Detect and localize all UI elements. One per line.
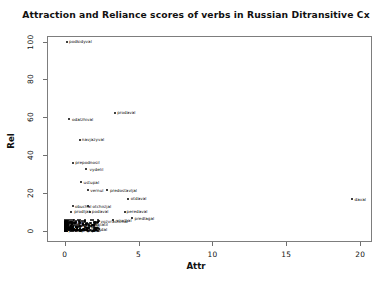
point-label: otchisljal xyxy=(93,203,112,208)
x-tick-mark xyxy=(212,242,213,246)
y-tick-label: 60 xyxy=(26,112,35,122)
point-label: predostavljal xyxy=(110,187,137,192)
data-point xyxy=(71,223,73,225)
data-point xyxy=(97,221,99,223)
data-point xyxy=(86,229,88,231)
data-point xyxy=(90,225,92,227)
point-label: otdaval xyxy=(131,196,147,201)
point-label: daval xyxy=(355,196,366,201)
data-point xyxy=(80,181,82,183)
data-point xyxy=(68,118,70,120)
data-point xyxy=(351,198,353,200)
data-point xyxy=(70,211,72,213)
x-tick-label: 15 xyxy=(281,250,291,259)
point-label: navjazyval xyxy=(82,137,104,142)
x-tick-label: 20 xyxy=(355,250,365,259)
point-label: vydelil xyxy=(90,166,104,171)
data-point xyxy=(88,227,90,229)
point-label: peredaval xyxy=(127,209,148,214)
data-point xyxy=(68,224,70,226)
data-point xyxy=(81,229,83,231)
data-point xyxy=(78,225,80,227)
y-tick-label: 20 xyxy=(26,188,35,198)
data-point xyxy=(87,205,89,207)
point-label: prepodnosil xyxy=(75,160,99,165)
data-point xyxy=(73,219,75,221)
data-point xyxy=(72,162,74,164)
point-label: podaval xyxy=(92,209,109,214)
data-point xyxy=(65,229,67,231)
point-label: podkidyval xyxy=(69,39,92,44)
data-point xyxy=(114,112,116,114)
x-tick-label: 0 xyxy=(62,250,67,259)
data-point xyxy=(72,205,74,207)
data-point xyxy=(89,229,91,231)
point-label: ustupal xyxy=(84,179,100,184)
x-tick-mark xyxy=(65,242,66,246)
x-tick-mark xyxy=(139,242,140,246)
data-point xyxy=(124,211,126,213)
scatter-layer: podkidyvalodalzhivalprodavalnavjazyvalpr… xyxy=(47,36,372,242)
x-tick-label: 5 xyxy=(136,250,141,259)
y-axis-label: Rel xyxy=(6,133,16,148)
data-point xyxy=(87,189,89,191)
data-point xyxy=(106,189,108,191)
point-label: odalzhival xyxy=(72,116,93,121)
chart-title: Attraction and Reliance scores of verbs … xyxy=(0,9,392,20)
data-point xyxy=(85,168,87,170)
y-tick-label: 80 xyxy=(26,74,35,84)
point-label: prodaval xyxy=(117,110,135,115)
y-tick-label: 0 xyxy=(26,228,35,233)
x-tick-mark xyxy=(360,242,361,246)
data-point xyxy=(75,222,77,224)
y-tick-label: 40 xyxy=(26,150,35,160)
point-label: prodljal xyxy=(74,209,90,214)
data-point xyxy=(84,219,86,221)
data-point xyxy=(66,41,68,43)
point-label: predlagal xyxy=(135,215,155,220)
data-point xyxy=(89,211,91,213)
x-tick-label: 10 xyxy=(207,250,217,259)
data-point xyxy=(64,224,66,226)
x-tick-mark xyxy=(286,242,287,246)
data-point xyxy=(85,223,87,225)
data-point xyxy=(74,229,76,231)
data-point xyxy=(64,221,66,223)
data-point xyxy=(95,229,97,231)
point-label: vernul xyxy=(90,187,103,192)
chart-container: Attraction and Reliance scores of verbs … xyxy=(0,0,392,282)
data-point xyxy=(66,226,68,228)
y-tick-label: 100 xyxy=(26,34,35,49)
data-point xyxy=(76,226,78,228)
data-point xyxy=(98,228,100,230)
data-point xyxy=(127,198,129,200)
data-point xyxy=(94,223,96,225)
x-axis-label: Attr xyxy=(0,261,392,271)
data-point xyxy=(78,220,80,222)
data-point xyxy=(79,139,81,141)
data-point xyxy=(71,228,73,230)
